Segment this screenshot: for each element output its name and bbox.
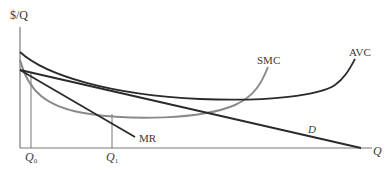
demand-curve <box>20 70 361 148</box>
x-axis-label: Q <box>373 144 382 158</box>
mr-label: MR <box>139 132 157 144</box>
avc-label: AVC <box>349 46 371 58</box>
smc-label: SMC <box>257 54 280 66</box>
q0-main: Q <box>25 150 34 164</box>
q1-main: Q <box>106 150 115 164</box>
economics-diagram: $/Q Q SMC AVC MR D Q0 Q1 <box>0 0 391 170</box>
y-axis-label: $/Q <box>10 8 28 22</box>
smc-curve <box>20 60 268 118</box>
q0-label: Q0 <box>25 150 38 165</box>
avc-curve <box>20 52 355 100</box>
q1-label: Q1 <box>106 150 119 165</box>
demand-label: D <box>307 123 316 135</box>
q0-subscript: 0 <box>34 157 38 165</box>
q1-subscript: 1 <box>115 157 119 165</box>
